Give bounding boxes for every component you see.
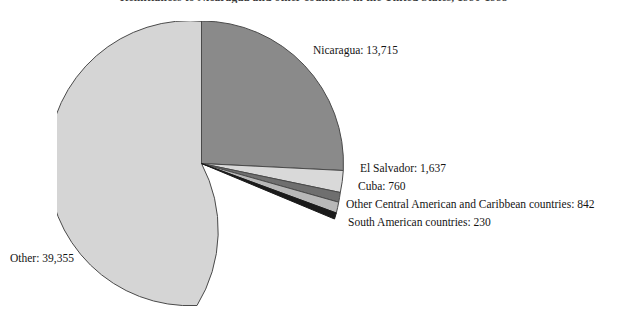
pie-chart-graphic [57, 21, 346, 306]
slice-label-nicaragua: Nicaragua: 13,715 [313, 44, 398, 57]
pie-svg [57, 21, 346, 306]
slice-label-south-american: South American countries: 230 [348, 216, 491, 229]
chart-title: Remittances to Nicaragua and other count… [0, 0, 628, 3]
slice-label-cuba: Cuba: 760 [358, 180, 406, 193]
pie-slices [57, 21, 343, 306]
pie-chart-figure: Remittances to Nicaragua and other count… [0, 0, 628, 326]
pie-slice-other [57, 21, 218, 306]
slice-label-other: Other: 39,355 [10, 252, 74, 265]
slice-label-other-central-american: Other Central American and Caribbean cou… [346, 198, 594, 211]
slice-label-el-salvador: El Salvador: 1,637 [360, 162, 446, 175]
